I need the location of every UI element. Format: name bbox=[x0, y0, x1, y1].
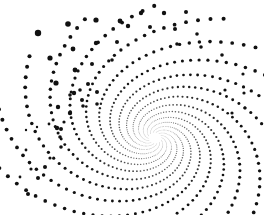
dot bbox=[148, 83, 150, 85]
dot bbox=[120, 70, 123, 73]
dot bbox=[171, 146, 172, 147]
dot bbox=[112, 79, 115, 82]
dot bbox=[148, 143, 149, 144]
dot bbox=[95, 183, 98, 186]
dot bbox=[147, 169, 149, 171]
dot bbox=[213, 196, 216, 199]
dot bbox=[172, 161, 173, 162]
dot bbox=[170, 163, 171, 164]
dot bbox=[217, 140, 219, 142]
dot bbox=[170, 131, 171, 132]
dot bbox=[128, 156, 129, 157]
dot bbox=[244, 66, 248, 70]
dot bbox=[71, 122, 74, 125]
dot bbox=[159, 145, 160, 146]
dot bbox=[156, 114, 157, 115]
dot bbox=[222, 17, 226, 21]
dot bbox=[178, 137, 179, 138]
dot bbox=[161, 122, 162, 123]
dot bbox=[144, 124, 145, 125]
dot bbox=[169, 122, 170, 123]
dot bbox=[156, 129, 157, 130]
dot bbox=[78, 88, 82, 92]
dot bbox=[137, 164, 139, 166]
dot bbox=[230, 111, 233, 114]
dot bbox=[142, 108, 144, 110]
dot bbox=[70, 116, 73, 119]
dot bbox=[140, 135, 141, 136]
dot bbox=[197, 128, 199, 130]
dot bbox=[105, 138, 107, 140]
dot bbox=[168, 130, 169, 131]
dot bbox=[140, 110, 142, 112]
dot bbox=[63, 44, 67, 48]
dot bbox=[176, 104, 178, 106]
dot bbox=[171, 136, 172, 137]
dot bbox=[187, 165, 189, 167]
dot bbox=[196, 98, 198, 100]
dot bbox=[249, 111, 252, 114]
dot bbox=[73, 76, 76, 79]
dot bbox=[147, 113, 148, 114]
dot bbox=[191, 180, 193, 182]
dot bbox=[158, 78, 160, 80]
dot bbox=[196, 108, 198, 110]
dot bbox=[260, 122, 263, 125]
dot bbox=[182, 126, 183, 127]
dot bbox=[101, 98, 103, 100]
dot bbox=[85, 111, 88, 114]
dot bbox=[155, 150, 156, 151]
dot bbox=[179, 138, 180, 139]
dot bbox=[138, 130, 139, 131]
dot bbox=[48, 156, 51, 159]
dot bbox=[164, 140, 165, 141]
dot bbox=[216, 191, 219, 194]
dot bbox=[133, 157, 134, 158]
dot bbox=[132, 170, 134, 172]
dot bbox=[159, 144, 160, 145]
dot bbox=[195, 139, 197, 141]
dot bbox=[195, 117, 197, 119]
dot bbox=[145, 143, 146, 144]
dot bbox=[189, 59, 192, 62]
dot bbox=[143, 149, 144, 150]
dot bbox=[172, 96, 174, 98]
dot bbox=[0, 118, 4, 122]
dot bbox=[160, 47, 163, 50]
dot bbox=[147, 134, 148, 135]
dot bbox=[152, 128, 153, 129]
dot bbox=[143, 85, 145, 87]
dot bbox=[185, 137, 186, 138]
dot bbox=[71, 84, 74, 87]
dot bbox=[101, 173, 103, 175]
dot bbox=[159, 118, 160, 119]
dot bbox=[128, 143, 129, 144]
dot bbox=[145, 54, 148, 57]
dot bbox=[199, 45, 203, 49]
dot bbox=[179, 130, 180, 131]
dot bbox=[132, 199, 135, 202]
dot bbox=[170, 135, 171, 136]
dot bbox=[162, 155, 163, 156]
dot bbox=[59, 145, 63, 149]
dot bbox=[198, 40, 202, 44]
dot bbox=[152, 4, 156, 8]
dot bbox=[152, 122, 153, 123]
dot bbox=[117, 94, 119, 96]
dot bbox=[210, 129, 212, 131]
dot bbox=[167, 122, 168, 123]
dot bbox=[125, 188, 127, 190]
dot bbox=[123, 146, 124, 147]
dot bbox=[126, 65, 129, 68]
dot bbox=[116, 150, 118, 152]
dot bbox=[90, 62, 94, 66]
dot bbox=[140, 153, 141, 154]
dot bbox=[188, 105, 190, 107]
dot bbox=[129, 150, 130, 151]
dot bbox=[145, 95, 147, 97]
dot bbox=[144, 106, 146, 108]
dot bbox=[198, 58, 201, 61]
dot bbox=[176, 212, 179, 215]
dot bbox=[212, 90, 215, 93]
dot bbox=[171, 122, 172, 123]
